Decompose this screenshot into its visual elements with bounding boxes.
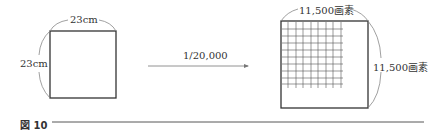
pixel-grid [282,22,343,88]
top-dimension-arc [99,20,116,31]
side-dimension-arc [39,72,50,98]
top-dimension-arc [50,20,68,31]
arrow-head-icon [244,64,249,68]
paper-height-label: 23cm [20,58,48,69]
paper-width-label: 23cm [70,14,98,25]
pixel-square [281,21,368,108]
side-dimension-arc [368,72,381,108]
top-dimension-arc [281,9,298,21]
side-dimension-arc [368,21,381,58]
side-dimension-arc [39,31,50,55]
paper-square [50,31,116,98]
scale-label: 1/20,000 [183,50,228,61]
pixel-width-label: 11,500画素 [299,2,354,17]
pixel-height-label: 11,500画素 [373,59,428,74]
figure-caption: 図 10 [20,117,47,130]
